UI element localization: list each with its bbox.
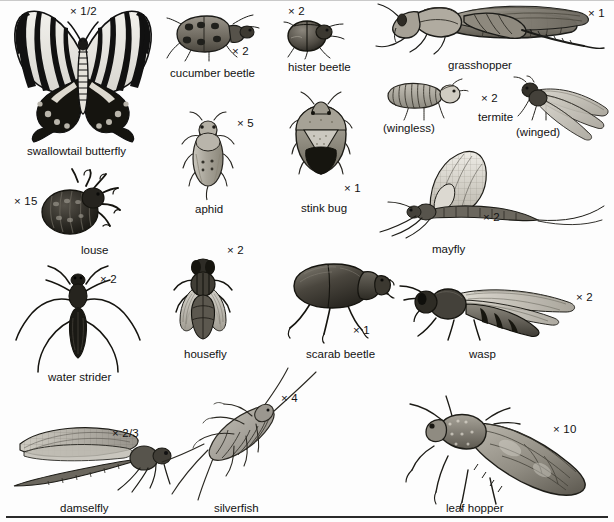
label-damselfly: damselfly: [60, 503, 109, 515]
label-louse: louse: [81, 245, 109, 257]
magnification-water-strider: × 2: [100, 274, 117, 286]
label-termite: termite: [478, 112, 513, 124]
figure-aphid: [176, 110, 240, 202]
magnification-leaf-hopper: × 10: [553, 424, 577, 436]
bottom-rule: [6, 516, 608, 518]
figure-hister-beetle: [280, 12, 348, 60]
figure-termite-wingless: [380, 76, 468, 122]
magnification-cucumber-beetle: × 2: [232, 46, 249, 58]
label-silverfish: silverfish: [214, 503, 259, 515]
figure-wasp: [396, 276, 596, 348]
top-rule: [0, 0, 614, 1]
figure-scarab-beetle: [282, 258, 398, 344]
label-stink-bug: stink bug: [301, 203, 347, 215]
magnification-termite: × 2: [481, 93, 498, 105]
figure-silverfish: [160, 366, 320, 502]
magnification-wasp: × 2: [576, 292, 593, 304]
label-swallowtail-butterfly: swallowtail butterfly: [27, 146, 126, 158]
label-grasshopper: grasshopper: [448, 60, 512, 72]
magnification-swallowtail-butterfly: × 1/2: [70, 6, 97, 18]
figure-mayfly: [368, 146, 608, 242]
figure-stink-bug: [286, 92, 356, 184]
magnification-stink-bug: × 1: [344, 183, 361, 195]
magnification-aphid: × 5: [237, 118, 254, 130]
magnification-silverfish: × 4: [281, 393, 298, 405]
figure-swallowtail-butterfly: [4, 4, 162, 146]
label-scarab-beetle: scarab beetle: [306, 349, 375, 361]
figure-damselfly: [6, 414, 182, 502]
figure-leaf-hopper: [394, 394, 610, 510]
label-termite-wingless: (wingless): [383, 123, 435, 135]
figure-water-strider: [8, 262, 148, 380]
magnification-damselfly: × 2/3: [112, 428, 139, 440]
magnification-grasshopper: × 1: [588, 8, 605, 20]
figure-louse: [34, 168, 126, 244]
magnification-hister-beetle: × 2: [288, 6, 305, 18]
label-cucumber-beetle: cucumber beetle: [170, 68, 255, 80]
figure-grasshopper: [372, 0, 608, 60]
label-mayfly: mayfly: [432, 244, 465, 256]
label-hister-beetle: hister beetle: [288, 62, 351, 74]
figure-housefly: [170, 254, 236, 348]
magnification-louse: × 15: [14, 196, 38, 208]
magnification-mayfly: × 2: [483, 212, 500, 224]
magnification-housefly: × 2: [227, 245, 244, 257]
label-aphid: aphid: [195, 204, 223, 216]
label-termite-winged: (winged): [516, 127, 560, 139]
label-housefly: housefly: [184, 349, 227, 361]
label-leaf-hopper: leaf hopper: [446, 503, 504, 515]
magnification-scarab-beetle: × 1: [353, 325, 370, 337]
insect-plate: × 1/2 × 2 × 2 × 1 × 5 × 1 × 2 × 15 × 2 ×…: [0, 0, 614, 522]
label-wasp: wasp: [469, 349, 496, 361]
label-water-strider: water strider: [48, 372, 111, 384]
